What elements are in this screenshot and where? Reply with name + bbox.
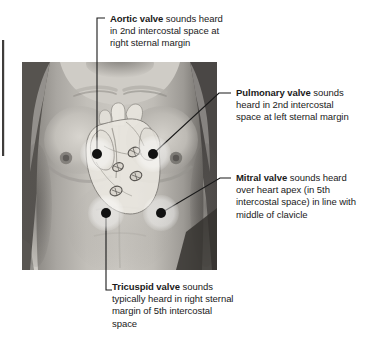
tricuspid-marker[interactable] (88, 195, 124, 231)
label-mitral-valve-name: Mitral valve (236, 172, 287, 183)
label-pulmonary-valve-name: Pulmonary valve (236, 87, 311, 98)
left-margin-rule (2, 40, 4, 156)
label-tricuspid-valve-name: Tricuspid valve (112, 281, 180, 292)
label-aortic-valve: Aortic valve sounds heard in 2nd interco… (110, 13, 228, 50)
label-aortic-valve-name: Aortic valve (110, 13, 163, 24)
pulmonary-marker[interactable] (135, 136, 171, 172)
label-tricuspid-valve: Tricuspid valve sounds typically heard i… (112, 281, 238, 330)
figure-root: Aortic valve sounds heard in 2nd interco… (0, 0, 365, 347)
torso-photo (20, 50, 222, 274)
label-mitral-valve: Mitral valve sounds heard over heart ape… (236, 172, 362, 221)
label-pulmonary-valve: Pulmonary valve sounds heard in 2nd inte… (236, 87, 360, 124)
mitral-marker[interactable] (143, 195, 179, 231)
aortic-marker[interactable] (80, 137, 114, 171)
